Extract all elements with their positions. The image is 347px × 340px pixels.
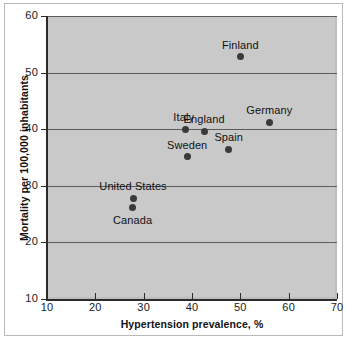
y-tick-20 xyxy=(41,242,47,243)
data-point-label-united-states: United States xyxy=(99,180,166,192)
data-point-label-germany: Germany xyxy=(246,104,292,116)
data-point-label-england: England xyxy=(184,113,225,125)
gridline-y-20 xyxy=(47,242,337,243)
y-tick-60 xyxy=(41,16,47,17)
x-tick-40 xyxy=(192,293,193,299)
gridline-y-50 xyxy=(47,73,337,74)
y-axis-line xyxy=(46,16,48,301)
gridline-group xyxy=(47,16,337,299)
y-tick-30 xyxy=(41,186,47,187)
x-tick-60 xyxy=(289,293,290,299)
gridline-y-60 xyxy=(47,16,337,17)
x-axis-title: Hypertension prevalence, % xyxy=(47,318,337,330)
data-point-label-sweden: Sweden xyxy=(167,139,207,151)
data-point-label-finland: Finland xyxy=(222,39,259,51)
scatter-chart-figure: 10203040506070 102030405060 FinlandGerma… xyxy=(0,0,347,340)
x-tick-label-50: 50 xyxy=(225,301,255,313)
x-tick-label-60: 60 xyxy=(274,301,304,313)
data-point-spain xyxy=(225,146,232,153)
x-tick-50 xyxy=(240,293,241,299)
x-tick-10 xyxy=(47,293,48,299)
x-tick-label-40: 40 xyxy=(177,301,207,313)
y-tick-10 xyxy=(41,299,47,300)
y-tick-50 xyxy=(41,73,47,74)
data-point-germany xyxy=(266,119,273,126)
data-point-england xyxy=(201,128,208,135)
data-point-label-canada: Canada xyxy=(113,214,152,226)
y-axis-title: Mortality per 100,000 inhabitants xyxy=(18,13,30,303)
x-tick-70 xyxy=(337,293,338,299)
x-tick-label-30: 30 xyxy=(129,301,159,313)
y-tick-40 xyxy=(41,129,47,130)
x-tick-30 xyxy=(144,293,145,299)
x-tick-label-20: 20 xyxy=(80,301,110,313)
gridline-y-40 xyxy=(47,129,337,130)
x-tick-label-70: 70 xyxy=(322,301,347,313)
x-tick-20 xyxy=(95,293,96,299)
data-point-united-states xyxy=(130,195,137,202)
gridline-y-30 xyxy=(47,186,337,187)
data-point-italy xyxy=(182,126,189,133)
data-point-label-spain: Spain xyxy=(214,131,243,143)
